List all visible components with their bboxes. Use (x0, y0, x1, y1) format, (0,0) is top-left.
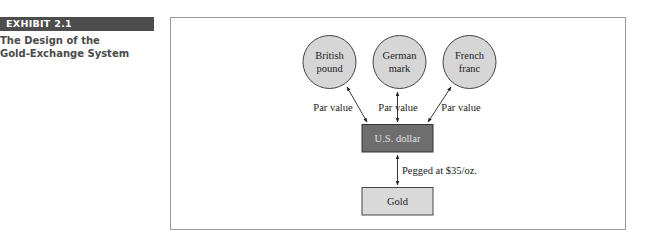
node-label-line1: British (315, 50, 344, 61)
gold-node-label: Gold (387, 196, 409, 207)
usd-node-label: U.S. dollar (375, 133, 421, 144)
par-value-label-mark: Par value (378, 102, 418, 113)
node-label-line2: pound (316, 63, 343, 74)
par-value-label-franc: Par value (441, 102, 481, 113)
peg-label: Pegged at $35/oz. (402, 165, 477, 176)
currency-node-french-franc: French franc (443, 36, 496, 89)
par-value-label-pound: Par value (313, 102, 353, 113)
node-label-line2: mark (389, 63, 411, 74)
node-label-line2: franc (459, 63, 481, 74)
usd-node: U.S. dollar (362, 125, 433, 153)
node-label-line1: French (455, 50, 485, 61)
gold-exchange-diagram: British pound German mark French franc P… (0, 0, 669, 245)
currency-node-british-pound: British pound (303, 36, 356, 89)
currency-node-german-mark: German mark (373, 36, 426, 89)
node-label-line1: German (383, 50, 418, 61)
gold-node: Gold (362, 188, 433, 216)
